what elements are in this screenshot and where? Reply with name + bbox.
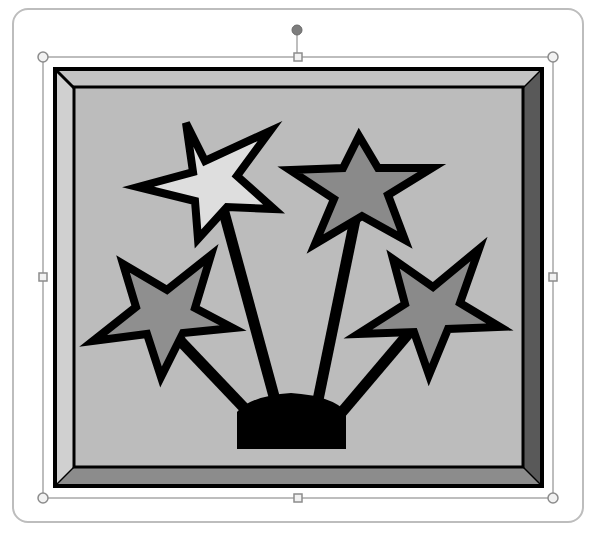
resize-handle-top-left[interactable] — [38, 52, 48, 62]
frame-bevel-bottom — [57, 466, 540, 484]
rotate-handle-icon[interactable] — [292, 25, 302, 35]
resize-handle-bottom-left[interactable] — [38, 493, 48, 503]
frame-bevel-right — [522, 71, 540, 484]
slide-canvas — [0, 0, 598, 539]
frame-bevel-left — [57, 71, 75, 484]
resize-handle-bottom-right[interactable] — [548, 493, 558, 503]
dome-base — [237, 393, 346, 449]
resize-handle-right-middle[interactable] — [549, 273, 557, 281]
resize-handle-bottom-middle[interactable] — [294, 494, 302, 502]
clip-art-graphic[interactable] — [0, 0, 598, 539]
resize-handle-left-middle[interactable] — [39, 273, 47, 281]
resize-handle-top-right[interactable] — [548, 52, 558, 62]
resize-handle-top-middle[interactable] — [294, 53, 302, 61]
